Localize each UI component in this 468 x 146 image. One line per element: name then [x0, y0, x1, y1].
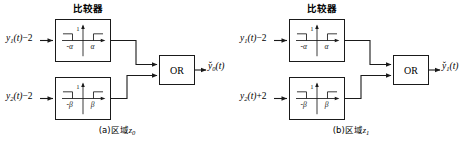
svg-text:-α: -α: [300, 42, 308, 51]
output-label-y0: y̌0(t): [208, 61, 224, 72]
svg-text:α: α: [325, 42, 330, 51]
comparator-block-alpha: 1 -α α: [55, 19, 111, 62]
comparator-block-beta: 1 -β β: [289, 77, 345, 120]
panel-caption-a: (a)区域z0: [0, 123, 234, 136]
threshold-labels-alpha: -α α: [56, 20, 110, 61]
comparator-block-alpha: 1 -α α: [289, 19, 345, 62]
comparator-block-beta: 1 -β β: [55, 77, 111, 120]
caption-text-b: (b)区域: [333, 125, 363, 135]
svg-text:β: β: [90, 100, 95, 109]
svg-text:β: β: [324, 100, 329, 109]
caption-text-a: (a)区域: [99, 125, 129, 135]
comparator-title: 比较器: [292, 1, 352, 15]
threshold-labels-beta: -β β: [56, 78, 110, 119]
svg-text:α: α: [91, 42, 96, 51]
caption-subscript-a: 0: [132, 129, 135, 136]
threshold-labels-alpha: -α α: [290, 20, 344, 61]
svg-text:-β: -β: [66, 100, 73, 109]
panel-region-z0: 比较器: [0, 0, 234, 146]
panel-caption-b: (b)区域z1: [234, 123, 468, 136]
or-gate: OR: [393, 55, 429, 85]
panel-region-z1: 比较器: [234, 0, 468, 146]
svg-text:-β: -β: [300, 100, 307, 109]
input-label-y1: y1(t)−2: [6, 33, 33, 44]
or-gate-label: OR: [404, 65, 418, 76]
figure-root: 比较器: [0, 0, 468, 146]
comparator-title: 比较器: [58, 1, 118, 15]
threshold-labels-beta: -β β: [290, 78, 344, 119]
caption-subscript-b: 1: [366, 129, 369, 136]
input-label-y2: y2(t)−2: [6, 91, 33, 102]
or-gate: OR: [159, 55, 195, 85]
output-label-y1: y̌1(t): [442, 61, 458, 72]
svg-text:-α: -α: [66, 42, 74, 51]
input-label-y2: y2(t)+2: [240, 91, 267, 102]
input-label-y1: y1(t)−2: [240, 33, 267, 44]
or-gate-label: OR: [170, 65, 184, 76]
